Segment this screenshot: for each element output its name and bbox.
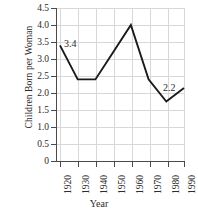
x-axis-title: Year	[0, 198, 198, 209]
data-series-line	[0, 0, 198, 218]
chart-container: Children Born per Woman 4.5 4.0 3.5 3.0 …	[0, 0, 198, 218]
data-label-2-2: 2.2	[163, 83, 176, 93]
data-label-3-4: 3.4	[64, 39, 77, 49]
